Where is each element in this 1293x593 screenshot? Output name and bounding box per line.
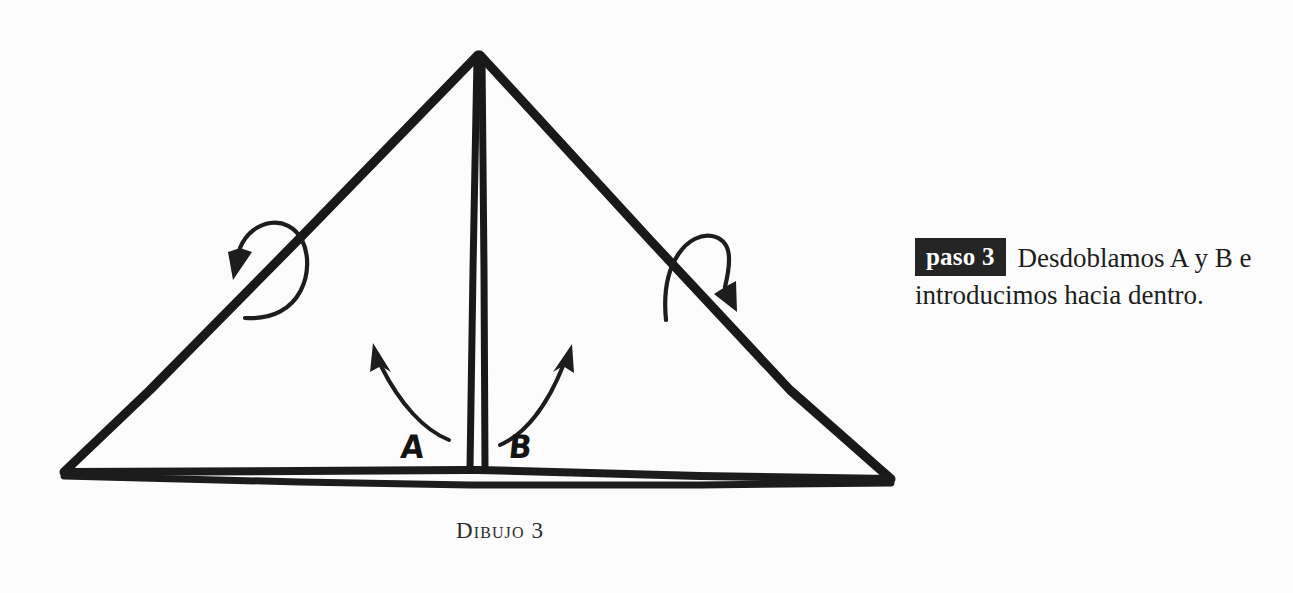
step-badge: paso 3	[915, 238, 1006, 276]
flap-label-b: B	[507, 431, 533, 463]
right-outer-fold-arrow-arc	[665, 236, 729, 320]
instruction-panel: paso 3Desdoblamos A y B e introducimos h…	[915, 238, 1265, 314]
center-fold-right-stroke	[482, 58, 485, 468]
center-fold-left-stroke	[470, 58, 477, 468]
triangle-right-edge	[480, 55, 891, 479]
fold-diagram-illustration	[0, 0, 900, 510]
page-root: A B Dibujo 3 paso 3Desdoblamos A y B e i…	[0, 0, 1293, 593]
triangle-left-edge	[64, 55, 478, 472]
diagram-area: A B Dibujo 3	[0, 0, 900, 593]
figure-caption: Dibujo 3	[0, 518, 1000, 544]
flap-label-a: A	[399, 431, 425, 463]
left-outer-fold-arrow-head	[228, 248, 252, 280]
